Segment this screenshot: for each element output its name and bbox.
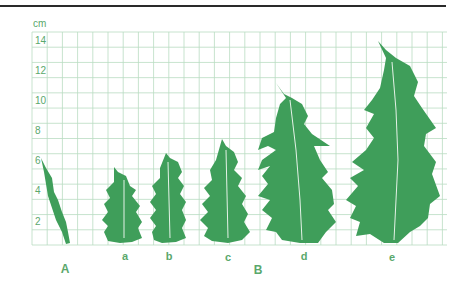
y-tick-2: 2 bbox=[35, 216, 41, 227]
leaf-silhouettes bbox=[41, 41, 440, 244]
y-tick-10: 10 bbox=[35, 95, 46, 106]
leaf-size-figure: cm 14 12 10 8 6 4 2 A a b c B d e bbox=[0, 0, 467, 291]
specimen-label-d: d bbox=[301, 250, 308, 262]
grid-and-leaves bbox=[0, 0, 467, 291]
specimen-label-b: b bbox=[166, 250, 173, 262]
y-tick-4: 4 bbox=[35, 185, 41, 196]
y-tick-6: 6 bbox=[35, 155, 41, 166]
y-tick-12: 12 bbox=[35, 65, 46, 76]
y-axis-unit-label: cm bbox=[33, 18, 46, 29]
specimen-label-a: a bbox=[122, 250, 128, 262]
y-tick-14: 14 bbox=[35, 35, 46, 46]
specimen-label-e: e bbox=[389, 251, 395, 263]
group-label-B: B bbox=[254, 263, 263, 277]
y-tick-8: 8 bbox=[35, 125, 41, 136]
specimen-label-c: c bbox=[225, 251, 231, 263]
group-label-A: A bbox=[61, 262, 70, 276]
leaf-A bbox=[41, 158, 70, 244]
leaf-c bbox=[200, 139, 250, 243]
